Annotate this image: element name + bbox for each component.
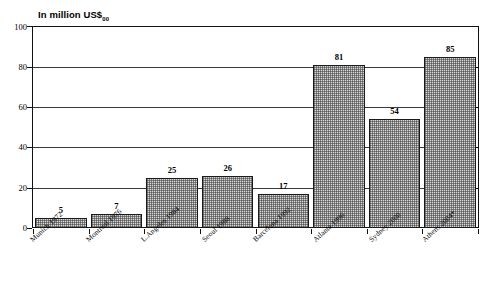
y-tick-label-60: 60 — [2, 103, 27, 111]
bar-slot-0: 5 — [33, 27, 89, 228]
bar-chart: In million US$00 100 80 60 40 20 0 5 — [0, 0, 496, 299]
y-tick-mark-20 — [27, 188, 32, 189]
chart-title-text: In million US$ — [38, 9, 102, 20]
bar-slot-5: 81 — [311, 27, 367, 228]
bar-slot-3: 26 — [200, 27, 256, 228]
x-tick-5 — [311, 229, 312, 234]
x-tick-3 — [200, 229, 201, 234]
bar-value-3: 26 — [200, 164, 256, 173]
y-tick-mark-80 — [27, 67, 32, 68]
y-tick-label-20: 20 — [2, 184, 27, 192]
bar-value-2: 25 — [144, 166, 200, 175]
bar-value-7: 85 — [422, 45, 478, 54]
chart-title: In million US$00 — [38, 9, 109, 25]
y-tick-mark-100 — [27, 26, 32, 27]
bar-value-5: 81 — [311, 53, 367, 62]
y-tick-label-80: 80 — [2, 63, 27, 71]
bar-value-4: 17 — [256, 182, 312, 191]
bar-slot-4: 17 — [256, 27, 312, 228]
table-row[interactable] — [146, 178, 198, 228]
x-tick-6 — [367, 229, 368, 234]
y-tick-label-40: 40 — [2, 143, 27, 151]
y-tick-mark-60 — [27, 107, 32, 108]
bars-container: 5 7 25 26 17 81 54 85 — [33, 27, 478, 228]
bar-slot-6: 54 — [367, 27, 423, 228]
y-tick-label-0: 0 — [2, 224, 27, 232]
x-tick-8 — [478, 229, 479, 234]
bar-slot-2: 25 — [144, 27, 200, 228]
bar-slot-7: 85 — [422, 27, 478, 228]
chart-title-subscript: 00 — [102, 16, 109, 22]
bar-value-6: 54 — [367, 107, 423, 116]
y-tick-label-100: 100 — [2, 23, 27, 31]
table-row[interactable] — [313, 65, 365, 228]
y-tick-mark-40 — [27, 147, 32, 148]
y-tick-mark-0 — [27, 228, 32, 229]
table-row[interactable] — [424, 57, 476, 228]
bar-slot-1: 7 — [89, 27, 145, 228]
